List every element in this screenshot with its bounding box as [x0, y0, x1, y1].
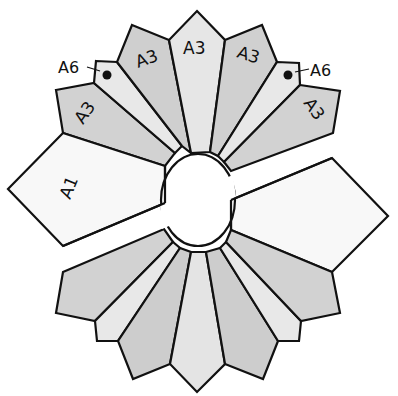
dresden-plate-diagram: A1 A3 A3 A3 A3 A3 A6 A6	[0, 0, 398, 396]
label-a3-top-center: A3	[183, 38, 205, 58]
dot-a6-left	[103, 71, 112, 80]
label-a6-right: A6	[310, 61, 331, 80]
label-a6-left: A6	[58, 58, 79, 77]
dot-a6-right	[284, 71, 293, 80]
